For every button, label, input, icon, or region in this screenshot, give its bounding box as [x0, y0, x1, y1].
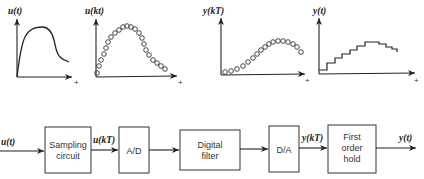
block-diagram: u(t) Sampling circuit u(kT) A/D Digital … [0, 125, 416, 173]
sampling-circuit-block [45, 127, 91, 173]
x-axis [319, 73, 415, 74]
plot-label-u-t: u(t) [8, 6, 22, 17]
plot-y-t: y(t) + [312, 6, 419, 85]
x-axis-end-mark: + [178, 78, 183, 87]
u-t-curve [17, 27, 69, 77]
plot-u-t: u(t) + [8, 6, 79, 87]
sampled-data-system-figure: u(t) + u(kt) + [0, 0, 424, 179]
ad-converter-label: A/D [126, 146, 142, 156]
first-order-hold-label-line2: order [341, 143, 362, 153]
x-axis-end-mark: + [74, 78, 79, 87]
x-axis [96, 76, 177, 77]
sampling-circuit-label-line2: circuit [56, 151, 80, 161]
y-t-staircase [319, 42, 397, 70]
plot-u-kt: u(kt) + [85, 6, 183, 87]
digital-filter-label-line2: filter [201, 151, 218, 161]
sample-points [95, 24, 168, 76]
sample-points [223, 39, 304, 75]
x-axis [221, 74, 305, 75]
plot-label-u-kt: u(kt) [85, 6, 104, 17]
first-order-hold-label-line1: First [343, 132, 361, 142]
x-axis-end-mark: + [305, 76, 310, 85]
first-order-hold-label-line3: hold [343, 154, 360, 164]
sampling-circuit-label-line1: Sampling [49, 140, 87, 150]
plot-label-y-kt: y(kT) [202, 6, 224, 17]
plot-label-y-t: y(t) [312, 6, 326, 17]
plot-y-kt: y(kT) + [202, 6, 310, 85]
da-converter-label: D/A [276, 145, 291, 155]
output-signal-label: y(t) [398, 133, 412, 144]
input-signal-label: u(t) [1, 137, 15, 148]
da-output-signal-label: y(kT) [301, 133, 323, 144]
x-axis-end-mark: + [414, 76, 419, 85]
digital-filter-label-line1: Digital [197, 140, 222, 150]
sampled-signal-label: u(kT) [93, 135, 115, 146]
digital-filter-block [180, 130, 240, 170]
